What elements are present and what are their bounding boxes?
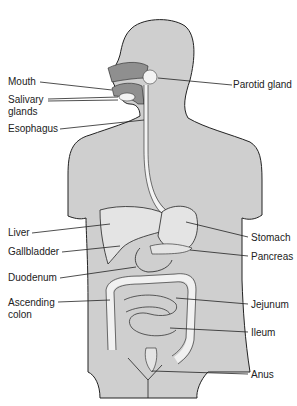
label-salivary-glands-line2: glands xyxy=(8,106,37,117)
digestive-system-diagram: Mouth Salivary glands Esophagus Liver Ga… xyxy=(0,0,297,406)
anatomy-drawing xyxy=(0,0,297,406)
label-mouth: Mouth xyxy=(8,76,36,87)
salivary-gland-shape xyxy=(119,93,135,101)
label-anus: Anus xyxy=(251,369,274,380)
parotid-gland-shape xyxy=(143,70,157,84)
label-parotid-gland: Parotid gland xyxy=(233,79,292,90)
label-jejunum: Jejunum xyxy=(251,299,289,310)
label-ascending-colon-line2: colon xyxy=(8,309,32,320)
label-ascending-colon-line1: Ascending xyxy=(8,297,55,308)
label-gallbladder: Gallbladder xyxy=(8,246,59,257)
label-liver: Liver xyxy=(8,227,30,238)
label-esophagus: Esophagus xyxy=(8,123,58,134)
label-duodenum: Duodenum xyxy=(8,272,57,283)
label-pancreas: Pancreas xyxy=(251,251,293,262)
label-stomach: Stomach xyxy=(251,232,290,243)
label-ileum: Ileum xyxy=(251,327,275,338)
label-salivary-glands-line1: Salivary xyxy=(8,94,44,105)
